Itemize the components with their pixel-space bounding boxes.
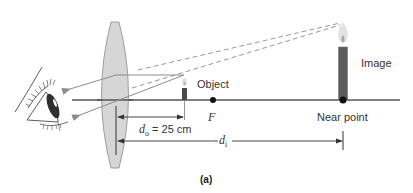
figure-caption: (a): [200, 174, 212, 185]
magnifier-diagram: Object F Image Near point do = 25 cm di …: [0, 0, 413, 193]
do-label: do = 25 cm: [139, 122, 192, 138]
image-candle: [338, 22, 348, 100]
virtual-ray-lower: [132, 25, 340, 88]
di-subscript: i: [225, 140, 227, 149]
di-label: di: [219, 133, 227, 149]
object-label: Object: [197, 78, 229, 90]
converging-lens: [102, 22, 129, 168]
image-label: Image: [361, 57, 392, 69]
virtual-ray-upper: [138, 23, 340, 70]
diagram-graphics: [0, 0, 413, 193]
do-value: = 25 cm: [149, 123, 192, 135]
near-point-label: Near point: [317, 111, 368, 123]
near-point-dot: [340, 97, 347, 104]
focal-point-label: F: [208, 110, 215, 125]
eye-illustration: [15, 67, 68, 131]
focal-point-dot: [210, 97, 216, 103]
object-candle: [182, 78, 187, 120]
